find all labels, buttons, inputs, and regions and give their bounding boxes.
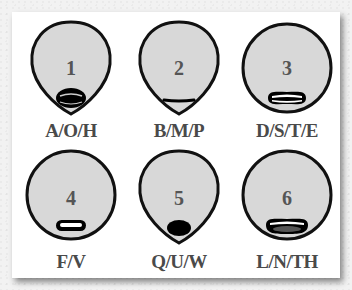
viseme-3: 3 D/S/T/E (232, 14, 342, 147)
mouth-narrow-slit (56, 220, 86, 231)
viseme-chart: 1 A/O/H 2 B/M/P 3 D/S/T/E (12, 12, 340, 278)
viseme-number-3: 3 (282, 57, 292, 79)
viseme-label-2: B/M/P (124, 120, 234, 142)
face-3: 3 (232, 14, 342, 124)
mouth-teeth-open-wide (268, 92, 306, 104)
mouth-closed-line (164, 100, 194, 101)
face-5: 5 (124, 145, 234, 255)
viseme-number-5: 5 (174, 187, 184, 209)
viseme-number-4: 4 (66, 187, 76, 209)
face-2: 2 (124, 14, 234, 124)
viseme-6: 6 L/N/TH (232, 145, 342, 278)
mouth-small-round-filled (167, 220, 191, 236)
viseme-4: 4 F/V (16, 145, 126, 278)
viseme-5: 5 Q/U/W (124, 145, 234, 278)
viseme-label-6: L/N/TH (232, 251, 342, 273)
viseme-number-6: 6 (282, 187, 292, 209)
viseme-label-3: D/S/T/E (232, 120, 342, 142)
viseme-label-5: Q/U/W (124, 251, 234, 273)
face-1: 1 (16, 14, 126, 124)
mouth-tongue-open (266, 219, 308, 234)
viseme-label-1: A/O/H (16, 120, 126, 142)
mouth-wide-open-oval (56, 88, 86, 108)
face-4: 4 (16, 145, 126, 255)
viseme-number-1: 1 (66, 57, 76, 79)
viseme-1: 1 A/O/H (16, 14, 126, 147)
viseme-label-4: F/V (16, 251, 126, 273)
viseme-number-2: 2 (174, 57, 184, 79)
face-6: 6 (232, 145, 342, 255)
viseme-2: 2 B/M/P (124, 14, 234, 147)
